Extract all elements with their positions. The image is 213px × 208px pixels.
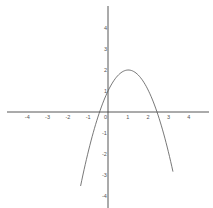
x-tick-label: 1 [126,114,129,120]
y-tick-label: 4 [104,25,107,31]
x-tick-label: 0 [104,114,107,120]
x-tick-label: 3 [167,114,170,120]
y-tick-label: 3 [104,46,107,52]
y-tick-label: 2 [104,67,107,73]
y-tick-label: -3 [102,172,107,178]
x-tick-label: -1 [86,114,91,120]
function-plot: -4-3-2-101234 4321-1-2-3-4 [0,0,213,208]
x-tick-label: -4 [25,114,30,120]
y-tick-label: -2 [102,151,107,157]
x-tick-labels: -4-3-2-101234 [25,114,190,120]
x-tick-label: -2 [65,114,70,120]
parabola-curve [81,70,173,186]
x-tick-label: -3 [45,114,50,120]
x-tick-label: 2 [147,114,150,120]
y-tick-label: -1 [102,130,107,136]
y-tick-label: -4 [102,193,107,199]
x-tick-label: 4 [187,114,190,120]
